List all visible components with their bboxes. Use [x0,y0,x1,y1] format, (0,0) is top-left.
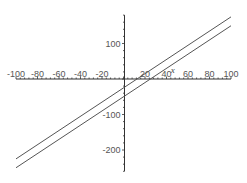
x-tick-label: -100 [7,69,25,79]
x-tick-label: 100 [223,69,238,79]
x-tick-label: -80 [31,69,44,79]
line-chart: -100-80-60-40-2020406080100100-100-200 x [0,0,247,183]
x-tick-label: -40 [74,69,87,79]
series-line-lower [16,26,231,168]
x-tick-label: 80 [204,69,214,79]
y-tick-label: -100 [102,110,120,120]
x-tick-label: 60 [183,69,193,79]
y-tick-label: 100 [105,39,120,49]
series-line-upper [16,17,231,159]
y-tick-label: -200 [102,145,120,155]
x-tick-label: -60 [52,69,65,79]
series-lines [16,17,231,168]
x-axis-label: x [170,65,175,75]
x-tick-label: -20 [95,69,108,79]
